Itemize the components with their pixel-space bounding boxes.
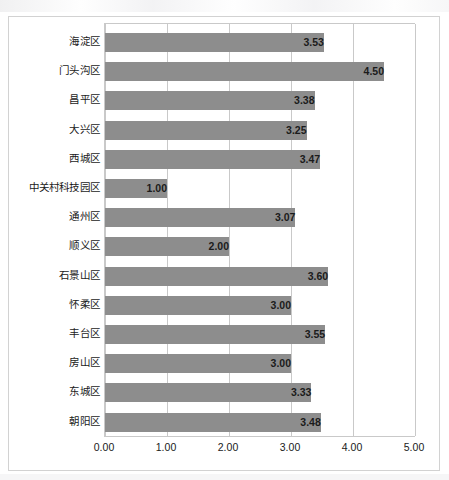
x-tick-label-0: 0.00 [74,441,134,453]
plot-area: 3.534.503.383.253.471.003.072.003.603.00… [104,23,415,437]
bar-chart: 海淀区门头沟区昌平区大兴区西城区中关村科技园区通州区顺义区石景山区怀柔区丰台区房… [9,17,439,470]
bar-row[interactable]: 4.50 [105,62,415,81]
y-axis-label-0: 海淀区 [69,32,100,51]
gridline-5-00 [415,24,416,436]
bar-row[interactable]: 3.07 [105,208,415,227]
bar-value-label-1: 4.50 [105,62,389,81]
bars-layer: 3.534.503.383.253.471.003.072.003.603.00… [105,24,415,436]
bar-value-label-9: 3.00 [105,296,296,315]
y-axis-label-3: 大兴区 [69,120,100,139]
x-tick-label-1: 1.00 [136,441,196,453]
bar-row[interactable]: 3.48 [105,413,415,432]
y-axis-label-12: 东城区 [69,382,100,401]
bar-value-label-0: 3.53 [105,33,329,52]
bar-row[interactable]: 3.47 [105,150,415,169]
y-axis-label-6: 通州区 [69,207,100,226]
x-tick-label-3: 3.00 [260,441,320,453]
bar-value-label-7: 2.00 [105,237,234,256]
y-axis-label-13: 朝阳区 [69,412,100,431]
bar-row[interactable]: 3.33 [105,383,415,402]
bar-row[interactable]: 3.38 [105,91,415,110]
x-tick-label-2: 2.00 [198,441,258,453]
chart-figure-frame: 海淀区门头沟区昌平区大兴区西城区中关村科技园区通州区顺义区石景山区怀柔区丰台区房… [8,16,440,471]
scan-artifact-top [0,0,449,12]
bar-row[interactable]: 3.25 [105,121,415,140]
x-tick-label-4: 4.00 [322,441,382,453]
bar-row[interactable]: 2.00 [105,237,415,256]
bar-value-label-5: 1.00 [105,179,172,198]
y-axis-label-5: 中关村科技园区 [29,178,100,197]
bar-row[interactable]: 1.00 [105,179,415,198]
bar-row[interactable]: 3.53 [105,33,415,52]
y-axis-label-11: 房山区 [69,353,100,372]
bar-value-label-10: 3.55 [105,325,330,344]
bar-value-label-4: 3.47 [105,150,325,169]
bar-row[interactable]: 3.00 [105,354,415,373]
bar-value-label-2: 3.38 [105,91,320,110]
y-axis-category-labels: 海淀区门头沟区昌平区大兴区西城区中关村科技园区通州区顺义区石景山区怀柔区丰台区房… [9,23,100,435]
y-axis-label-4: 西城区 [69,149,100,168]
bar-value-label-12: 3.33 [105,383,316,402]
x-tick-label-5: 5.00 [384,441,444,453]
bar-row[interactable]: 3.60 [105,267,415,286]
x-axis-tick-labels: 0.001.002.003.004.005.00 [9,441,439,461]
y-axis-label-8: 石景山区 [59,266,100,285]
bar-value-label-3: 3.25 [105,121,312,140]
y-axis-label-10: 丰台区 [69,324,100,343]
y-axis-label-7: 顺义区 [69,236,100,255]
bar-value-label-6: 3.07 [105,208,300,227]
y-axis-label-2: 昌平区 [69,90,100,109]
bar-row[interactable]: 3.00 [105,296,415,315]
bar-value-label-13: 3.48 [105,413,326,432]
scan-artifact-bottom [0,474,449,480]
y-axis-label-1: 门头沟区 [59,61,100,80]
y-axis-label-9: 怀柔区 [69,295,100,314]
bar-value-label-8: 3.60 [105,267,333,286]
bar-value-label-11: 3.00 [105,354,296,373]
bar-row[interactable]: 3.55 [105,325,415,344]
